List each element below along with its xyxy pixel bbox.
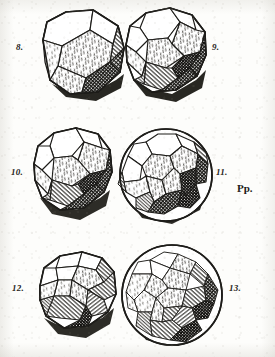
plate-signature: Pp. bbox=[237, 182, 253, 194]
polyhedra-illustration: 8 bbox=[0, 0, 275, 357]
figure-label-12: 12. bbox=[12, 283, 24, 293]
figure-9-truncated-cuboctahedron bbox=[126, 8, 206, 102]
figure-11-rhombicosidodecahedron bbox=[118, 129, 212, 224]
figure-label-8: 8. bbox=[16, 42, 23, 52]
figure-label-13: 13. bbox=[229, 283, 241, 293]
figure-13-snub-dodecahedron bbox=[122, 245, 222, 346]
engraving-plate: 8 bbox=[0, 0, 275, 357]
figure-8-truncated-octahedron bbox=[43, 10, 124, 101]
figure-10-rhombicuboctahedron bbox=[34, 128, 112, 220]
figure-12-snub-cube bbox=[40, 252, 116, 338]
figure-label-11: 11. bbox=[216, 167, 227, 177]
figure-label-9: 9. bbox=[212, 42, 219, 52]
figure-label-10: 10. bbox=[11, 167, 23, 177]
